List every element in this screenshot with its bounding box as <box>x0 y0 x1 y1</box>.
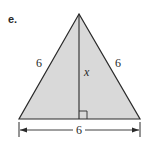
triangle-svg <box>0 0 150 151</box>
height-label: x <box>84 66 89 78</box>
triangle-diagram: e. 6 6 x 6 <box>0 0 150 151</box>
part-label: e. <box>8 14 17 25</box>
right-side-label: 6 <box>115 57 121 69</box>
base-label: 6 <box>76 124 82 136</box>
arrowhead-right-icon <box>132 128 139 133</box>
left-side-label: 6 <box>36 57 42 69</box>
arrowhead-left-icon <box>20 128 27 133</box>
